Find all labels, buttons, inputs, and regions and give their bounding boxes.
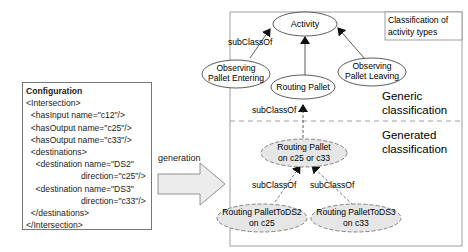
node-ds3-label-2: on c33 [343,218,369,228]
node-leaving-label-2: Pallet Leaving [345,71,399,81]
generic-label-1: Generic [382,90,423,102]
node-leaving-label-1: Observing [352,61,391,71]
diagram-canvas: generation Classification of activity ty… [0,0,468,252]
node-routing-pallet-label: Routing Pallet [276,82,330,92]
subclassof-label: subClassOf [228,37,273,47]
node-c25-c33-label-1: Routing Pallet [277,142,331,152]
node-ds3-label-1: Routing PalletToDS3 [316,207,396,217]
generation-arrow [158,163,225,205]
subclassof-label: subClassOf [310,180,355,190]
generation-label: generation [158,153,201,163]
node-entering-label-1: Observing [216,63,255,73]
subclassof-label: subClassOf [252,180,297,190]
subclassof-label: subClassOf [252,105,297,115]
node-c25-c33-label-2: on c25 or c33 [278,153,330,163]
generated-label-2: classification [382,143,447,155]
node-ds2-label-2: on c25 [249,218,275,228]
panel-title-line2: activity types [388,27,437,37]
node-activity-label: Activity [291,19,320,29]
generated-label-1: Generated [382,129,436,141]
node-entering-label-2: Pallet Entering [208,73,264,83]
node-ds2-label-1: Routing PalletToDS2 [222,207,302,217]
panel-title-line1: Classification of [388,15,449,25]
generic-label-2: classification [382,104,447,116]
